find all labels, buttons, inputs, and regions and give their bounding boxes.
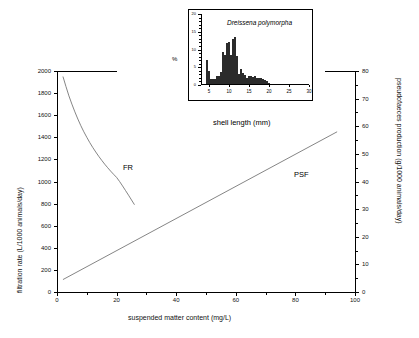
inset-species-label: Dreissena polymorpha (227, 19, 292, 26)
figure-root: 0200400600800100012001400160018002000010… (0, 0, 419, 338)
right-tick-label-80: 80 (362, 68, 386, 74)
left-tick-label-1400: 1400 (27, 134, 51, 140)
psf-curve (63, 132, 337, 280)
right-tick-20 (356, 237, 359, 238)
right-tick-label-60: 60 (362, 123, 386, 129)
inset-y-minor-tick (199, 21, 201, 22)
inset-y-axis-line (201, 14, 202, 85)
left-axis-title: filtration rate (L/1000 animals/day) (16, 187, 23, 293)
inset-y-minor-tick (199, 64, 201, 65)
fr-curve (63, 77, 135, 205)
inset-y-axis-title: % (172, 56, 177, 62)
inset-x-tick-label-10: 10 (222, 90, 236, 95)
inset-y-tick-label-5: 5 (186, 65, 196, 69)
right-minor-tick-15 (356, 251, 358, 252)
inset-x-tick-label-30: 30 (302, 90, 316, 95)
inset-y-minor-tick (199, 53, 201, 54)
bottom-tick-20 (117, 293, 118, 296)
inset-y-minor-tick (199, 71, 201, 72)
right-tick-label-70: 70 (362, 96, 386, 102)
left-tick-1400 (54, 137, 57, 138)
right-tick-30 (356, 209, 359, 210)
inset-x-axis-line (201, 84, 309, 85)
inset-y-minor-tick (199, 57, 201, 58)
bottom-tick-60 (236, 293, 237, 296)
left-tick-label-0: 0 (27, 289, 51, 295)
bottom-tick-label-20: 20 (105, 297, 129, 303)
left-tick-label-2000: 2000 (27, 68, 51, 74)
inset-histogram: 0510152051015202530 Dreissena polymorpha (188, 9, 313, 101)
left-tick-1800 (54, 93, 57, 94)
inset-y-tick-0 (198, 85, 201, 86)
right-tick-40 (356, 182, 359, 183)
right-minor-tick-75 (356, 85, 358, 86)
inset-y-tick-20 (198, 14, 201, 15)
right-tick-80 (356, 71, 359, 72)
inset-x-tick-label-25: 25 (282, 90, 296, 95)
right-tick-label-50: 50 (362, 151, 386, 157)
right-minor-tick-25 (356, 223, 358, 224)
inset-x-tick-15 (249, 85, 250, 87)
inset-x-axis-title: shell length (mm) (213, 118, 271, 127)
bottom-tick-40 (176, 293, 177, 296)
right-tick-70 (356, 99, 359, 100)
left-tick-1600 (54, 115, 57, 116)
bottom-tick-label-0: 0 (45, 297, 69, 303)
right-tick-label-30: 30 (362, 206, 386, 212)
left-tick-800 (54, 204, 57, 205)
bottom-tick-0 (57, 293, 58, 296)
inset-y-tick-label-20: 20 (186, 12, 196, 16)
inset-x-tick-5 (209, 85, 210, 87)
right-minor-tick-45 (356, 168, 358, 169)
left-tick-label-1800: 1800 (27, 90, 51, 96)
inset-y-minor-tick (199, 35, 201, 36)
inset-y-minor-tick (199, 60, 201, 61)
inset-y-tick-label-10: 10 (186, 48, 196, 52)
bottom-tick-label-100: 100 (343, 297, 367, 303)
bottom-minor-tick-50 (206, 293, 207, 295)
left-tick-label-200: 200 (27, 267, 51, 273)
inset-x-tick-25 (289, 85, 290, 87)
inset-x-tick-label-15: 15 (242, 90, 256, 95)
left-tick-600 (54, 226, 57, 227)
left-tick-200 (54, 270, 57, 271)
right-tick-60 (356, 126, 359, 127)
right-minor-tick-55 (356, 140, 358, 141)
bottom-tick-80 (295, 293, 296, 296)
right-tick-label-40: 40 (362, 179, 386, 185)
inset-y-minor-tick (199, 39, 201, 40)
x-axis-title: suspended matter content (mg/L) (128, 314, 231, 321)
inset-y-tick-label-0: 0 (186, 83, 196, 87)
bottom-tick-label-40: 40 (164, 297, 188, 303)
inset-x-tick-10 (229, 85, 230, 87)
bottom-tick-100 (355, 293, 356, 296)
bottom-minor-tick-10 (87, 293, 88, 295)
inset-x-tick-20 (269, 85, 270, 87)
right-tick-label-20: 20 (362, 234, 386, 240)
left-tick-label-1000: 1000 (27, 179, 51, 185)
bottom-minor-tick-30 (146, 293, 147, 295)
bottom-tick-label-60: 60 (224, 297, 248, 303)
right-minor-tick-5 (356, 278, 358, 279)
inset-y-minor-tick (199, 42, 201, 43)
left-tick-label-1200: 1200 (27, 156, 51, 162)
left-tick-1200 (54, 159, 57, 160)
inset-y-minor-tick (199, 46, 201, 47)
bottom-tick-label-80: 80 (283, 297, 307, 303)
inset-y-minor-tick (199, 28, 201, 29)
left-tick-label-800: 800 (27, 201, 51, 207)
bottom-minor-tick-90 (325, 293, 326, 295)
inset-x-tick-30 (309, 85, 310, 87)
fr-annotation: FR (123, 163, 133, 172)
inset-y-tick-10 (198, 50, 201, 51)
inset-y-minor-tick (199, 81, 201, 82)
right-minor-tick-35 (356, 195, 358, 196)
inset-x-tick-label-5: 5 (202, 90, 216, 95)
inset-y-tick-15 (198, 32, 201, 33)
right-axis-title: pseudofaeces production (g/1000 animals/… (396, 78, 403, 224)
inset-y-tick-label-15: 15 (186, 30, 196, 34)
left-tick-400 (54, 248, 57, 249)
bottom-minor-tick-70 (266, 293, 267, 295)
right-minor-tick-65 (356, 112, 358, 113)
right-tick-10 (356, 264, 359, 265)
